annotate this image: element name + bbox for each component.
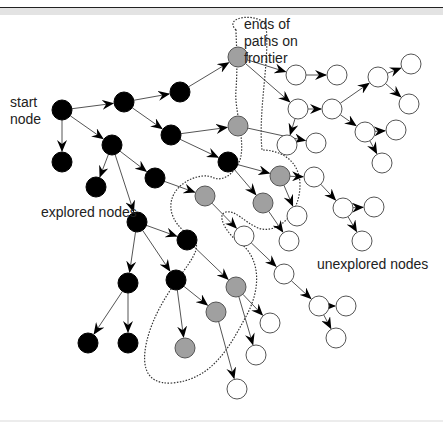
start-node-label-line1: start	[10, 94, 41, 111]
explored-node	[170, 82, 190, 102]
start-node-label-line2: node	[10, 111, 41, 128]
unexplored-node	[246, 345, 266, 365]
explored-node	[52, 152, 72, 172]
frontier-node	[253, 193, 273, 213]
edge-arrow	[284, 185, 293, 206]
unexplored-node	[260, 313, 280, 333]
unexplored-node	[336, 296, 356, 316]
unexplored-node	[306, 133, 326, 153]
edge-arrow	[189, 63, 229, 87]
unexplored-node	[227, 379, 247, 399]
unexplored-node	[372, 153, 392, 173]
edge-arrow	[134, 94, 169, 100]
unexplored-node	[355, 122, 375, 142]
unexplored-node	[286, 65, 306, 85]
unexplored-node	[274, 264, 294, 284]
frontier-label-line1: ends of	[244, 16, 298, 33]
unexplored-node	[288, 99, 308, 119]
explored-node	[161, 125, 181, 145]
explored-node	[102, 135, 122, 155]
edge-arrow	[120, 151, 146, 171]
edge-arrow	[321, 184, 336, 200]
unexplored-node	[327, 65, 347, 85]
edge-arrow	[177, 290, 183, 337]
edge-arrow	[269, 211, 283, 232]
edge-arrow	[146, 225, 176, 236]
edge-arrow	[184, 286, 208, 305]
edge-arrow	[291, 281, 311, 299]
unexplored-node	[234, 226, 254, 246]
unexplored-node	[399, 94, 419, 114]
unexplored-node	[364, 197, 384, 217]
edge-arrow	[100, 154, 109, 176]
edge-arrow	[115, 155, 134, 212]
edge-arrow	[164, 181, 194, 192]
frontier-node	[226, 277, 246, 297]
edge-arrow	[72, 103, 113, 108]
edge-arrow	[248, 128, 305, 141]
edge-arrow	[370, 141, 377, 154]
unexplored-node	[326, 328, 346, 348]
unexplored-node	[401, 54, 421, 74]
edge-arrow	[251, 243, 276, 267]
unexplored-node	[309, 296, 329, 316]
edge-arrow	[340, 115, 356, 126]
frontier-label: ends of paths on frontier	[244, 16, 298, 67]
unexplored-node	[333, 198, 353, 218]
edge-arrow	[181, 127, 227, 133]
unexplored-node	[304, 167, 324, 187]
edge-arrow	[180, 139, 218, 157]
frontier-node	[228, 116, 248, 136]
edge-arrow	[290, 119, 295, 135]
frontier-node	[206, 302, 226, 322]
edge-arrow	[243, 294, 263, 315]
explored-node	[118, 333, 138, 353]
explored-node	[118, 273, 138, 293]
explored-node	[166, 270, 186, 290]
edge-arrow	[348, 217, 357, 232]
frontier-node	[270, 166, 290, 186]
edge-arrow	[94, 291, 122, 334]
unexplored-node	[368, 67, 388, 87]
unexplored-node	[386, 120, 406, 140]
frontier-label-line3: frontier	[244, 50, 298, 67]
explored-node	[218, 152, 238, 172]
edge-arrow	[246, 64, 290, 102]
unexplored-nodes-label: unexplored nodes	[317, 256, 428, 273]
edge-arrow	[70, 116, 103, 139]
edge-arrow	[324, 315, 331, 328]
edge-arrow	[234, 170, 255, 195]
start-node-label: start node	[10, 94, 41, 128]
explored-node	[86, 177, 106, 197]
edge-arrow	[340, 83, 369, 103]
edge-arrow	[132, 108, 162, 129]
explored-node	[52, 100, 72, 120]
frontier-label-line2: paths on	[244, 33, 298, 50]
explored-node	[78, 333, 98, 353]
edge-arrow	[143, 230, 170, 271]
edge-arrow	[130, 232, 136, 272]
frontier-node	[175, 338, 195, 358]
frontier-node	[195, 186, 215, 206]
edge-arrow	[239, 297, 253, 345]
unexplored-node	[322, 99, 342, 119]
edge-arrow	[238, 165, 270, 174]
explored-node	[145, 168, 165, 188]
edge-arrow	[219, 322, 234, 379]
unexplored-node	[279, 231, 299, 251]
edge-arrow	[194, 247, 228, 279]
unexplored-node	[287, 206, 307, 226]
unexplored-node	[352, 231, 372, 251]
unexplored-node	[277, 135, 297, 155]
explored-node	[177, 230, 197, 250]
explored-node	[114, 92, 134, 112]
explored-nodes-label: explored nodes	[41, 204, 137, 221]
edge-arrow	[386, 84, 401, 97]
edge-arrow	[387, 68, 400, 73]
edge-arrow	[375, 131, 385, 132]
